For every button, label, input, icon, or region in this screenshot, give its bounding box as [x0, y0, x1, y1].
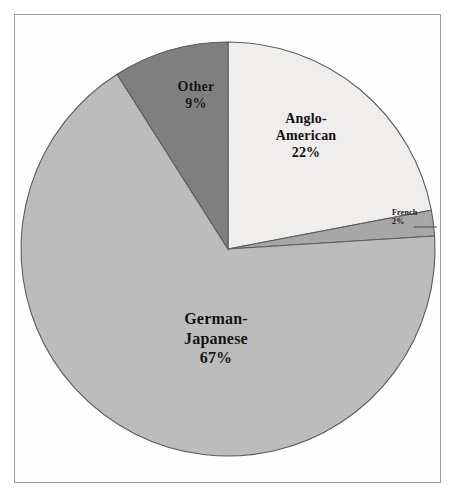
- figure-page: Anglo- American 22% Other 9% German- Jap…: [0, 0, 456, 499]
- slice-value-anglo-american: 22%: [252, 144, 360, 161]
- slice-label-other: Other 9%: [150, 78, 242, 112]
- pie-chart: Anglo- American 22% Other 9% German- Jap…: [0, 0, 456, 499]
- slice-label-german-japanese-line2: Japanese: [140, 329, 292, 349]
- slice-value-other: 9%: [150, 95, 242, 112]
- slice-label-french-line1: French: [392, 208, 444, 217]
- slice-label-anglo-american-line1: Anglo-: [252, 110, 360, 127]
- slice-label-german-japanese: German- Japanese 67%: [140, 309, 292, 368]
- slice-label-other-line1: Other: [150, 78, 242, 95]
- slice-label-french: French 2%: [392, 208, 444, 226]
- slice-value-french: 2%: [392, 217, 444, 226]
- pie-chart-svg: [0, 0, 456, 499]
- slice-label-anglo-american: Anglo- American 22%: [252, 110, 360, 161]
- slice-value-german-japanese: 67%: [140, 348, 292, 368]
- slice-label-german-japanese-line1: German-: [140, 309, 292, 329]
- slice-label-anglo-american-line2: American: [252, 127, 360, 144]
